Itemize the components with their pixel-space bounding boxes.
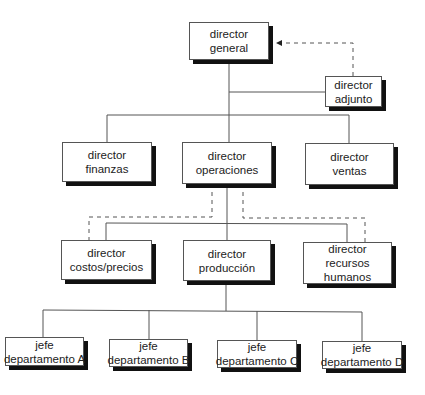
node-label-line: jefe	[35, 338, 54, 352]
node-label-line: jefe	[248, 340, 267, 354]
solid-connectors	[43, 60, 362, 341]
node-jefe-departamento-d: jefedepartamento D	[322, 341, 402, 369]
node-label-line: recursos	[325, 256, 369, 270]
node-label-line: departamento A	[4, 352, 85, 366]
node-label-line: jefe	[139, 339, 158, 353]
node-label-line: producción	[199, 261, 255, 275]
node-director-operaciones: directoroperaciones	[182, 142, 272, 184]
node-jefe-departamento-a: jefedepartamento A	[5, 337, 84, 366]
node-label-line: adjunto	[335, 92, 373, 106]
node-jefe-departamento-c: jefedepartamento C	[217, 340, 297, 368]
node-director-general: directorgeneral	[189, 22, 269, 60]
node-director-recursos-humanos: directorrecursoshumanos	[303, 242, 392, 284]
node-label-line: director	[328, 242, 366, 256]
node-director-ventas: directorventas	[305, 143, 394, 185]
node-label-line: departamento C	[216, 354, 298, 368]
node-director-costos-precios: directorcostos/precios	[61, 240, 152, 280]
node-label-line: director	[334, 78, 372, 92]
node-label-line: jefe	[353, 341, 372, 355]
node-label-line: director	[208, 149, 246, 163]
node-label-line: humanos	[324, 270, 371, 284]
node-label-line: director	[88, 148, 126, 162]
node-label-line: director	[210, 27, 248, 41]
node-label-line: general	[210, 41, 248, 55]
node-director-finanzas: directorfinanzas	[62, 142, 152, 182]
node-jefe-departamento-b: jefedepartamento B	[109, 339, 188, 367]
node-label-line: operaciones	[196, 163, 259, 177]
node-label-line: costos/precios	[70, 260, 144, 274]
node-label-line: departamento B	[108, 353, 190, 367]
node-label-line: departamento D	[321, 355, 403, 369]
node-label-line: ventas	[333, 164, 367, 178]
node-label-line: director	[87, 246, 125, 260]
node-label-line: director	[330, 150, 368, 164]
arrowhead-icon	[276, 40, 282, 46]
node-director-adjunto: directoradjunto	[325, 76, 382, 107]
node-label-line: finanzas	[86, 162, 129, 176]
node-label-line: director	[208, 247, 246, 261]
node-director-produccion: directorproducción	[183, 240, 271, 281]
